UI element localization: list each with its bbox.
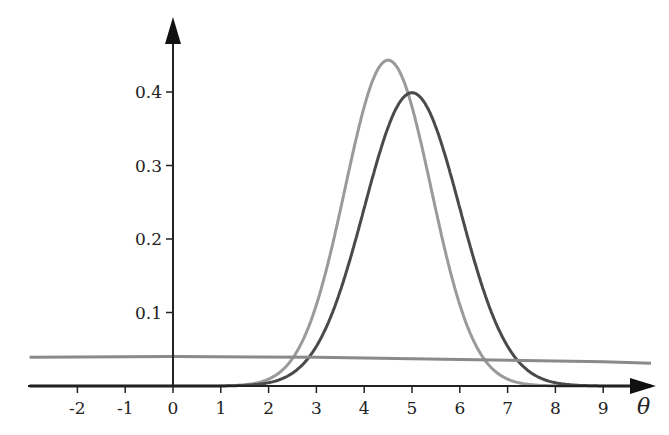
flat-gray-density-curve [30,357,651,364]
y-tick-label: 0.2 [135,229,162,249]
y-ticks-group: 0.10.20.30.4 [135,82,173,323]
x-tick-label: 8 [550,398,561,418]
y-axis-arrow-icon [165,17,181,44]
x-ticks-group: -2-10123456789 [69,386,608,418]
chart-canvas: -2-10123456789 0.10.20.30.4 θ [0,0,669,435]
x-tick-label: 9 [598,398,609,418]
y-tick-label: 0.1 [135,303,162,323]
x-tick-label: -2 [69,398,86,418]
x-tick-label: 1 [215,398,226,418]
x-tick-label: 3 [311,398,322,418]
x-tick-label: -1 [117,398,134,418]
x-tick-label: 6 [454,398,465,418]
dark-gray-density-curve [30,93,651,386]
x-axis-label: θ [637,394,650,419]
y-tick-label: 0.3 [135,156,162,176]
x-tick-label: 0 [168,398,179,418]
curves-group [30,60,651,386]
light-gray-density-curve [30,60,651,386]
x-axis-arrow-icon [630,378,656,394]
x-tick-label: 7 [502,398,513,418]
x-tick-label: 2 [263,398,274,418]
y-tick-label: 0.4 [135,82,162,102]
x-tick-label: 4 [359,398,370,418]
x-tick-label: 5 [407,398,418,418]
